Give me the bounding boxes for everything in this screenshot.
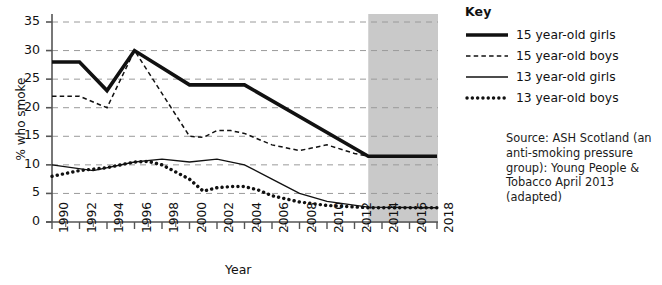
y-tick-label: 0: [16, 213, 40, 228]
x-tick-label: 1996: [140, 202, 154, 233]
thin-dashed-line-icon: [465, 49, 509, 63]
legend-item-13-boys: 13 year-old boys: [465, 87, 661, 108]
smoking-trend-figure: % who smoke Year Key 15 year-old girls 1…: [0, 0, 662, 285]
x-tick-label: 2008: [305, 202, 319, 233]
thick-dotted-line-icon: [465, 91, 509, 105]
x-axis-title: Year: [225, 262, 251, 277]
x-tick-label: 1992: [85, 202, 99, 233]
source-note: Source: ASH Scotland (an anti-smoking pr…: [506, 131, 662, 205]
legend-item-15-girls: 15 year-old girls: [465, 24, 661, 45]
x-tick-label: 2000: [195, 202, 209, 233]
y-tick-label: 35: [16, 13, 40, 28]
x-tick-label: 2010: [332, 202, 346, 233]
x-tick-label: 2014: [387, 202, 401, 233]
x-tick-label: 1990: [57, 202, 71, 233]
x-tick-label: 2018: [442, 202, 456, 233]
legend-label: 15 year-old boys: [516, 49, 619, 63]
x-tick-label: 2012: [360, 202, 374, 233]
legend-label: 15 year-old girls: [516, 28, 616, 42]
thin-solid-line-icon: [465, 70, 509, 84]
x-tick-label: 2004: [250, 202, 264, 233]
projection-shaded-region: [368, 14, 438, 223]
legend-label: 13 year-old girls: [516, 70, 616, 84]
y-tick-label: 25: [16, 70, 40, 85]
x-tick-label: 1998: [167, 202, 181, 233]
x-tick-label: 2016: [415, 202, 429, 233]
x-tick-label: 1994: [112, 202, 126, 233]
legend-item-15-boys: 15 year-old boys: [465, 45, 661, 66]
y-tick-label: 20: [16, 99, 40, 114]
y-tick-label: 15: [16, 127, 40, 142]
legend-title: Key: [465, 4, 661, 19]
legend-label: 13 year-old boys: [516, 91, 619, 105]
y-tick-label: 10: [16, 156, 40, 171]
legend-item-13-girls: 13 year-old girls: [465, 66, 661, 87]
thick-solid-line-icon: [465, 28, 509, 42]
legend: Key 15 year-old girls 15 year-old boys 1…: [465, 4, 661, 108]
x-tick-label: 2002: [222, 202, 236, 233]
x-tick-label: 2006: [277, 202, 291, 233]
y-tick-label: 30: [16, 42, 40, 57]
y-tick-label: 5: [16, 184, 40, 199]
